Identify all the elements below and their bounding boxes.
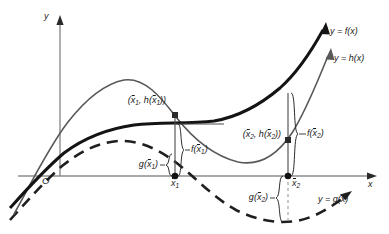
h-at-x2-point-marker <box>285 137 291 143</box>
curve-f-label: y = f(x) <box>330 27 358 36</box>
math-diagram-figure: y x O y = f(x) y = h(x) y = g(x) (x1, h(… <box>0 0 389 234</box>
g-x2-brace-label: g(x2) <box>249 193 268 202</box>
f-x1-brace <box>178 124 184 176</box>
x2-axis-point-marker <box>285 173 292 180</box>
y-axis-arrow-icon <box>56 15 63 25</box>
h-at-x2-point-label: (x2, h(x2)) <box>243 130 281 139</box>
h-at-x1-point-label: (x1, h(x1)) <box>128 96 166 105</box>
f-x1-brace-label: f(x1) <box>191 145 208 154</box>
y-axis-label: y <box>44 12 49 21</box>
curve-h-label: y = h(x) <box>334 54 364 63</box>
x2-tick-label: x2 <box>292 179 300 188</box>
f-x2-brace-label: f(x2) <box>307 129 324 138</box>
curve-f-arrow-icon <box>320 22 330 35</box>
curve-f <box>10 30 323 208</box>
h-at-x1-point-marker <box>172 112 178 118</box>
axes-group <box>18 15 377 180</box>
origin-label: O <box>42 176 49 186</box>
g-x2-brace <box>276 176 283 222</box>
g-x1-brace-label: g(x1) <box>139 160 158 169</box>
x1-tick-label: x1 <box>171 179 179 188</box>
x-axis-label: x <box>368 180 373 189</box>
f-x2-brace <box>291 93 298 176</box>
curve-g-label: y = g(x) <box>318 195 348 204</box>
